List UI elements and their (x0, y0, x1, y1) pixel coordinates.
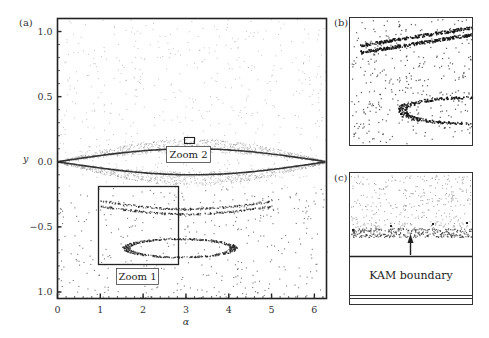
y-tick-label: −0.5 (29, 221, 52, 232)
panel-b-label: (b) (334, 17, 348, 28)
scatter-points-b (351, 19, 473, 144)
y-axis-label: y (22, 153, 29, 164)
x-tick-label: 0 (54, 304, 60, 315)
x-tick-label: 5 (269, 304, 275, 315)
x-tick-label: 1 (97, 304, 103, 315)
y-tick-label: 0.5 (37, 91, 52, 102)
y-tick-label: 1.0 (37, 286, 52, 297)
panel-b: (b) (334, 17, 473, 146)
figure: (a) Zoom 1 Zoom 2 1.00.50.0−0.51.0 01234… (0, 0, 489, 338)
x-axis-label: α (183, 316, 190, 327)
kam-boundary-label: KAM boundary (369, 269, 453, 282)
y-tick-label: 1.0 (37, 26, 52, 37)
y-tick-label: 0.0 (37, 156, 52, 167)
up-arrow-icon (408, 234, 414, 255)
resonance-bands (100, 200, 272, 259)
x-tick-label: 4 (226, 304, 232, 315)
scatter-points-c (351, 175, 472, 238)
zoom-1-label: Zoom 1 (118, 271, 156, 282)
panel-a: (a) Zoom 1 Zoom 2 1.00.50.0−0.51.0 01234… (19, 17, 327, 327)
panel-c-label: (c) (334, 172, 348, 183)
x-tick-label: 6 (311, 304, 317, 315)
zoom-2-label: Zoom 2 (169, 149, 207, 160)
x-axis: 0123456 (54, 294, 322, 315)
y-axis: 1.00.50.0−0.51.0 (29, 26, 61, 297)
panel-c: (c) KAM boundary (334, 172, 473, 305)
panel-a-label: (a) (19, 17, 33, 28)
x-tick-label: 3 (183, 304, 189, 315)
x-tick-label: 2 (140, 304, 146, 315)
